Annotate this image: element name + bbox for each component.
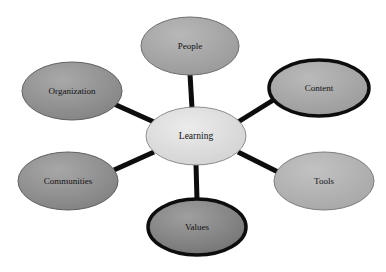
node-organization-label: Organization <box>49 86 96 96</box>
node-values[interactable]: Values <box>148 199 246 255</box>
node-people-label: People <box>178 41 203 51</box>
node-communities-label: Communities <box>44 176 93 186</box>
connector-learning-people <box>190 74 192 108</box>
node-values-label: Values <box>185 222 209 232</box>
node-learning[interactable]: Learning <box>146 107 246 165</box>
node-content[interactable]: Content <box>269 60 369 116</box>
diagram-canvas: PeopleContentToolsValuesCommunitiesOrgan… <box>0 0 386 272</box>
node-tools[interactable]: Tools <box>274 152 374 210</box>
connector-learning-values <box>196 164 197 200</box>
node-tools-label: Tools <box>314 176 334 186</box>
node-organization[interactable]: Organization <box>22 62 122 120</box>
node-communities[interactable]: Communities <box>18 152 118 210</box>
node-people[interactable]: People <box>141 17 239 75</box>
node-content-label: Content <box>305 83 334 93</box>
concept-map-diagram: PeopleContentToolsValuesCommunitiesOrgan… <box>0 0 386 272</box>
node-learning-label: Learning <box>179 131 214 141</box>
